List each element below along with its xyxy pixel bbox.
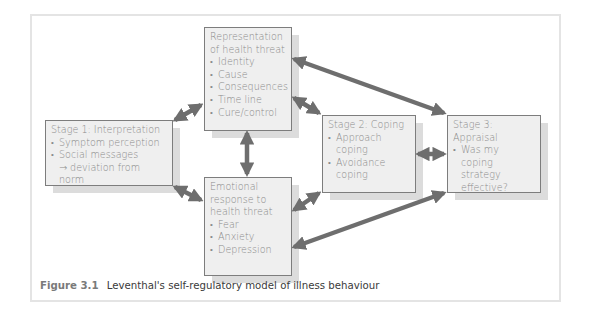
list-item: Consequences xyxy=(210,81,287,94)
list-item: Time line xyxy=(210,94,287,107)
box-title: Stage 1: Interpretation xyxy=(51,124,168,137)
item-line: coping xyxy=(461,157,493,168)
item-list: Was my coping strategy effective? xyxy=(453,144,536,194)
figure-label: Figure 3.1 xyxy=(40,280,99,291)
item-list: Symptom perception Social messages → dev… xyxy=(51,137,168,187)
arrow-emotional-stage3 xyxy=(294,193,444,247)
title-line: Representation xyxy=(210,31,287,44)
item-line: coping xyxy=(336,144,368,155)
representation-of-health-threat-box: Representation of health threat Identity… xyxy=(204,27,292,131)
title-line: health threat xyxy=(210,206,287,219)
item-line: coping xyxy=(336,169,368,180)
item-line: Was my xyxy=(461,144,499,155)
box-title: Emotional response to health threat xyxy=(210,181,287,219)
arrow-representation-stage2 xyxy=(294,98,319,113)
list-item: Approach coping xyxy=(328,132,411,157)
list-item: Depression xyxy=(210,244,287,257)
stage2-coping-box: Stage 2: Coping Approach coping Avoidanc… xyxy=(322,115,416,193)
figure-caption: Figure 3.1 Leventhal's self-regulatory m… xyxy=(40,280,379,291)
list-item: Fear xyxy=(210,219,287,232)
title-line: response to xyxy=(210,194,287,207)
stage3-appraisal-box: Stage 3: Appraisal Was my coping strateg… xyxy=(447,115,541,193)
list-item: Cause xyxy=(210,69,287,82)
list-item: Symptom perception xyxy=(51,137,168,150)
list-item: Avoidance coping xyxy=(328,157,411,182)
list-item: Anxiety xyxy=(210,231,287,244)
item-line: Avoidance xyxy=(336,157,385,168)
list-item: Cure/control xyxy=(210,107,287,120)
box-title: Stage 2: Coping xyxy=(328,119,411,132)
emotional-response-box: Emotional response to health threat Fear… xyxy=(204,177,292,276)
list-item: Identity xyxy=(210,56,287,69)
item-line: effective? xyxy=(461,182,508,193)
box-title: Stage 3: Appraisal xyxy=(453,119,536,144)
list-item: Was my coping strategy effective? xyxy=(453,144,536,194)
item-line: strategy xyxy=(461,169,501,180)
box-title: Representation of health threat xyxy=(210,31,287,56)
list-item-continuation: → deviation from norm xyxy=(51,162,168,187)
item-list: Identity Cause Consequences Time line Cu… xyxy=(210,56,287,119)
title-line: Emotional xyxy=(210,181,287,194)
arrow-emotional-stage2 xyxy=(294,193,319,210)
arrow-stage1-representation xyxy=(175,105,201,120)
figure-title: Leventhal's self-regulatory model of ill… xyxy=(107,280,380,291)
stage1-interpretation-box: Stage 1: Interpretation Symptom percepti… xyxy=(45,120,173,186)
item-list: Fear Anxiety Depression xyxy=(210,219,287,257)
item-list: Approach coping Avoidance coping xyxy=(328,132,411,182)
list-item: Social messages xyxy=(51,149,168,162)
arrow-representation-stage3 xyxy=(294,59,444,113)
arrow-stage1-emotional xyxy=(175,187,201,200)
item-line: Approach xyxy=(336,132,382,143)
title-line: of health threat xyxy=(210,44,287,57)
